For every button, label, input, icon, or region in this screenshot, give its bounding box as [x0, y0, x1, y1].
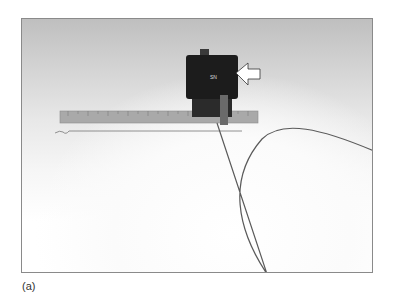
svg-text:SN: SN — [210, 74, 217, 80]
wire-loop — [217, 123, 373, 273]
photo-scene: SN — [22, 19, 373, 273]
connector-top — [200, 49, 209, 56]
pointer-arrow-icon — [236, 63, 260, 85]
sensor-box: SN — [186, 55, 238, 125]
figure-photo: SN — [21, 18, 373, 273]
wire-straight — [55, 131, 242, 133]
figure-caption: (a) — [22, 280, 35, 292]
